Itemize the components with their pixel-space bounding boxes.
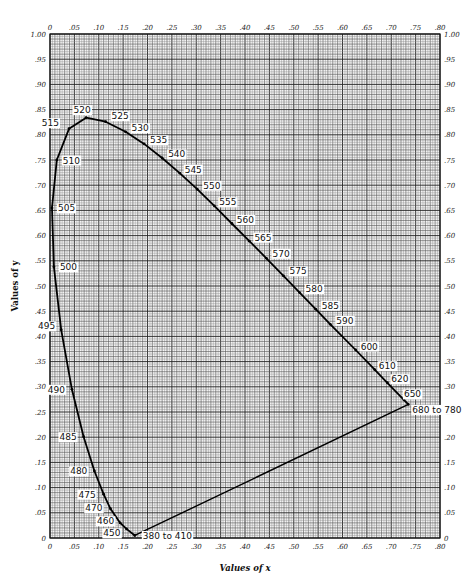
wavelength-marker bbox=[143, 142, 146, 145]
y-tick-right: .75 bbox=[444, 157, 456, 165]
wavelength-marker bbox=[119, 521, 122, 524]
wavelength-marker bbox=[282, 275, 285, 278]
wavelength-label: 495 bbox=[38, 321, 55, 331]
y-tick-left: .75 bbox=[35, 157, 47, 165]
y-tick-left: 1.00 bbox=[30, 31, 46, 39]
wavelength-label: 545 bbox=[185, 165, 202, 175]
wavelength-label: 580 bbox=[306, 284, 323, 294]
wavelength-marker bbox=[125, 528, 128, 531]
wavelength-label: 620 bbox=[391, 374, 408, 384]
y-tick-left: .90 bbox=[35, 81, 47, 89]
wavelength-marker bbox=[53, 265, 56, 268]
y-tick-right: .70 bbox=[444, 182, 456, 190]
x-tick-top: .75 bbox=[410, 24, 422, 32]
y-tick-left: .65 bbox=[35, 207, 47, 215]
y-tick-left: .10 bbox=[35, 484, 47, 492]
wavelength-marker bbox=[85, 116, 88, 119]
y-tick-right: .40 bbox=[444, 333, 456, 341]
x-tick-top: .60 bbox=[337, 24, 349, 32]
chromaticity-diagram: 00.05.05.10.10.15.15.20.20.25.25.30.30.3… bbox=[0, 0, 473, 579]
y-tick-right: .10 bbox=[444, 484, 456, 492]
wavelength-label: 520 bbox=[73, 105, 90, 115]
x-tick-bottom: .75 bbox=[410, 543, 422, 551]
wavelength-label: 480 bbox=[70, 466, 87, 476]
x-tick-bottom: .15 bbox=[118, 543, 130, 551]
y-tick-right: .55 bbox=[444, 257, 456, 265]
y-tick-left: 0 bbox=[42, 535, 47, 543]
x-tick-top: 0 bbox=[48, 24, 53, 32]
y-tick-right: .30 bbox=[444, 383, 456, 391]
x-tick-bottom: .60 bbox=[337, 543, 349, 551]
x-tick-bottom: .50 bbox=[288, 543, 300, 551]
y-tick-left: .60 bbox=[35, 232, 47, 240]
y-tick-left: .20 bbox=[35, 434, 47, 442]
x-tick-top: .45 bbox=[264, 24, 276, 32]
wavelength-marker bbox=[407, 403, 410, 406]
wavelength-label: 560 bbox=[237, 215, 254, 225]
y-tick-left: .55 bbox=[35, 257, 47, 265]
wavelength-marker bbox=[298, 291, 301, 294]
x-tick-top: .15 bbox=[118, 24, 130, 32]
y-tick-right: .20 bbox=[444, 434, 456, 442]
x-tick-top: .35 bbox=[215, 24, 227, 32]
y-tick-right: .95 bbox=[444, 56, 456, 64]
wavelength-label: 575 bbox=[290, 266, 307, 276]
x-tick-bottom: .10 bbox=[93, 543, 105, 551]
wavelength-label: 460 bbox=[97, 516, 114, 526]
wavelength-label: 485 bbox=[59, 432, 76, 442]
x-tick-top: .05 bbox=[69, 24, 81, 32]
wavelength-label: 600 bbox=[361, 342, 378, 352]
x-tick-bottom: .45 bbox=[264, 543, 276, 551]
wavelength-marker bbox=[104, 120, 107, 123]
x-tick-top: .70 bbox=[386, 24, 398, 32]
x-tick-top: .65 bbox=[361, 24, 373, 32]
y-tick-right: .35 bbox=[444, 358, 456, 366]
x-tick-bottom: .55 bbox=[313, 543, 325, 551]
wavelength-marker bbox=[386, 381, 389, 384]
wavelength-marker bbox=[314, 308, 317, 311]
x-tick-top: .20 bbox=[142, 24, 154, 32]
wavelength-marker bbox=[109, 507, 112, 510]
x-tick-bottom: .70 bbox=[386, 543, 398, 551]
wavelength-label: 505 bbox=[58, 203, 75, 213]
y-tick-right: .15 bbox=[444, 459, 456, 467]
wavelength-label: 515 bbox=[42, 118, 59, 128]
wavelength-marker bbox=[354, 349, 357, 352]
y-axis-title: Values of y bbox=[10, 259, 20, 312]
wavelength-label: 490 bbox=[48, 385, 65, 395]
wavelength-marker bbox=[329, 323, 332, 326]
x-tick-top: .30 bbox=[191, 24, 203, 32]
y-tick-right: .60 bbox=[444, 232, 456, 240]
y-tick-left: .50 bbox=[35, 283, 47, 291]
wavelength-label: 555 bbox=[219, 197, 236, 207]
y-tick-right: .50 bbox=[444, 283, 456, 291]
y-tick-right: .85 bbox=[444, 106, 456, 114]
x-tick-top: .55 bbox=[313, 24, 325, 32]
x-tick-bottom: .65 bbox=[361, 543, 373, 551]
y-tick-left: .40 bbox=[35, 333, 47, 341]
y-tick-right: .45 bbox=[444, 308, 456, 316]
wavelength-marker bbox=[51, 206, 54, 209]
wavelength-marker bbox=[373, 368, 376, 371]
wavelength-label: 500 bbox=[60, 262, 77, 272]
wavelength-marker bbox=[248, 240, 251, 243]
y-tick-left: .70 bbox=[35, 182, 47, 190]
wavelength-marker bbox=[82, 435, 85, 438]
y-tick-left: .25 bbox=[35, 409, 47, 417]
wavelength-label: 610 bbox=[379, 361, 396, 371]
wavelength-label: 450 bbox=[103, 528, 120, 538]
x-tick-bottom: .30 bbox=[191, 543, 203, 551]
wavelength-marker bbox=[93, 470, 96, 473]
y-tick-right: .65 bbox=[444, 207, 456, 215]
y-tick-left: .15 bbox=[35, 459, 47, 467]
wavelength-marker bbox=[55, 159, 58, 162]
wavelength-marker bbox=[230, 222, 233, 225]
wavelength-label: 570 bbox=[272, 249, 289, 259]
wavelength-label: 650 bbox=[404, 389, 421, 399]
wavelength-label: 535 bbox=[150, 135, 167, 145]
y-tick-right: .80 bbox=[444, 131, 456, 139]
x-axis-title: Values of x bbox=[219, 563, 271, 573]
wavelength-label: 590 bbox=[336, 316, 353, 326]
x-tick-bottom: .80 bbox=[434, 543, 446, 551]
wavelength-marker bbox=[68, 127, 71, 130]
